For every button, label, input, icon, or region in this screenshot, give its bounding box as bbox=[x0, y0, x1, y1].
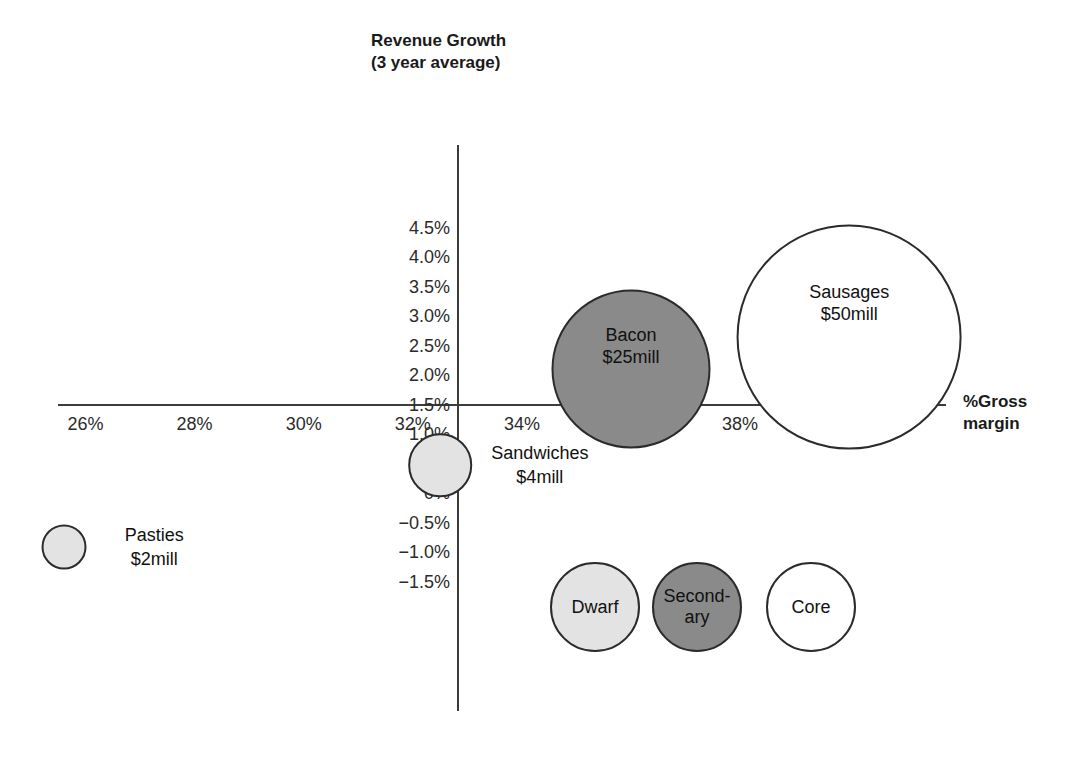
legend-label-line1: Second- bbox=[663, 586, 730, 607]
chart-legend: DwarfSecond-aryCore bbox=[0, 0, 1089, 775]
legend-label: Core bbox=[791, 597, 830, 618]
bubble-chart: Revenue Growth (3 year average) %Gross m… bbox=[0, 0, 1089, 775]
legend-bubble-dwarf[interactable]: Dwarf bbox=[550, 562, 640, 652]
legend-label: Dwarf bbox=[571, 597, 618, 618]
legend-label: Second-ary bbox=[663, 586, 730, 628]
legend-bubble-core[interactable]: Core bbox=[766, 562, 856, 652]
legend-bubble-secondary[interactable]: Second-ary bbox=[652, 562, 742, 652]
legend-label-line2: ary bbox=[663, 607, 730, 628]
